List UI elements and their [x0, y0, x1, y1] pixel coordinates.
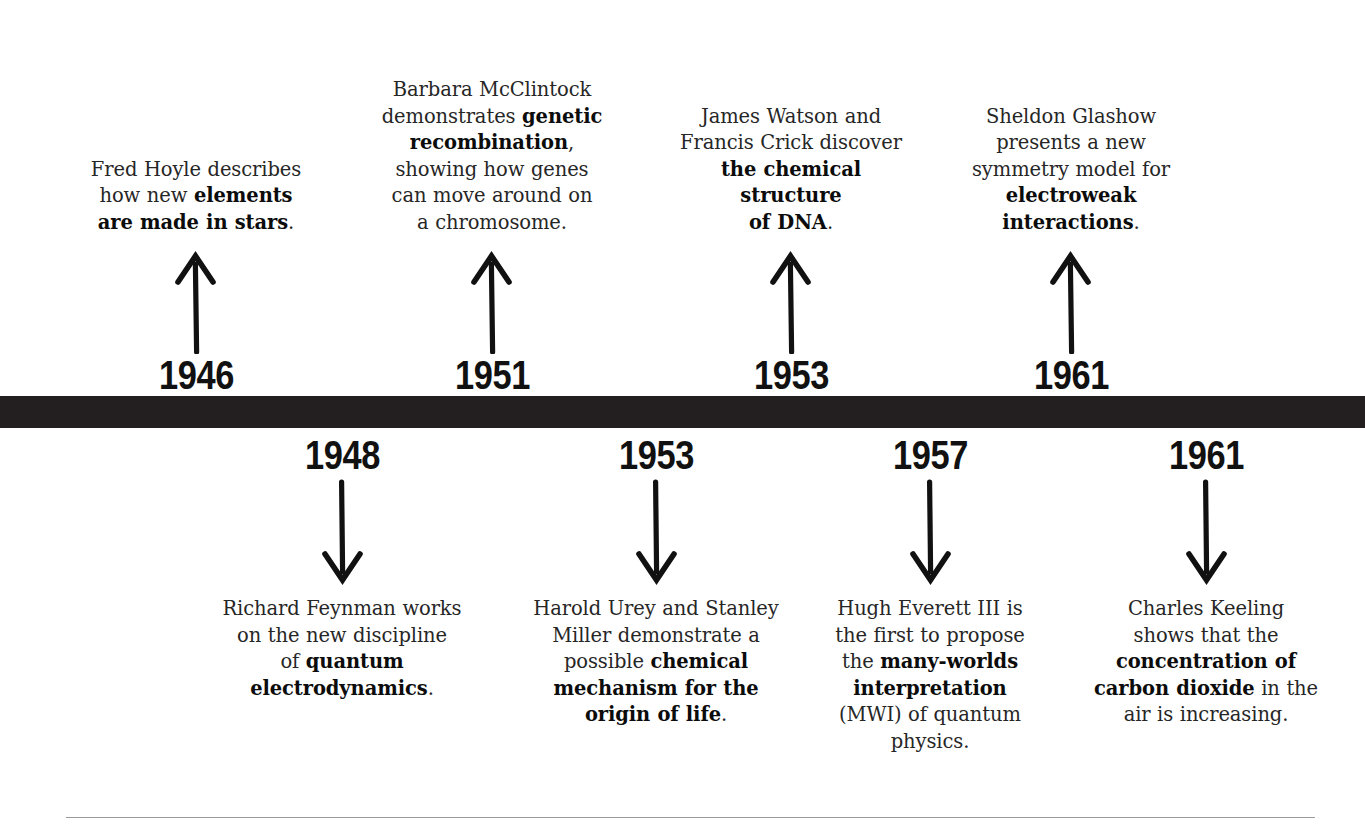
timeline-bar: [0, 396, 1365, 428]
timeline-event-above-0: Fred Hoyle describeshow new elementsare …: [62, 100, 330, 396]
timeline-event-above-1: Barbara McClintockdemonstrates geneticre…: [356, 28, 628, 396]
event-year: 1953: [754, 354, 829, 396]
event-caption: Harold Urey and StanleyMiller demonstrat…: [533, 596, 778, 729]
event-caption: James Watson andFrancis Crick discoverth…: [680, 104, 902, 237]
arrow-down-icon: [522, 476, 790, 592]
event-year: 1951: [455, 354, 530, 396]
event-year: 1948: [305, 434, 380, 476]
event-caption: Richard Feynman workson the new discipli…: [223, 596, 462, 702]
event-year: 1957: [893, 434, 968, 476]
arrow-up-icon: [938, 242, 1204, 354]
timeline-event-below-3: 1961 Charles Keelingshows that theconcen…: [1078, 434, 1334, 790]
event-year: 1946: [159, 354, 234, 396]
timeline-diagram: Fred Hoyle describeshow new elementsare …: [0, 0, 1365, 831]
timeline-event-below-1: 1953 Harold Urey and StanleyMiller demon…: [522, 434, 790, 790]
timeline-event-below-2: 1957 Hugh Everett III isthe first to pro…: [806, 434, 1054, 816]
event-caption: Fred Hoyle describeshow new elementsare …: [91, 157, 301, 237]
event-year: 1961: [1034, 354, 1109, 396]
arrow-up-icon: [356, 242, 628, 354]
event-year: 1961: [1169, 434, 1244, 476]
arrow-up-icon: [655, 242, 927, 354]
arrow-down-icon: [208, 476, 476, 592]
event-caption: Hugh Everett III isthe first to proposet…: [835, 596, 1025, 755]
timeline-event-below-0: 1948 Richard Feynman workson the new dis…: [208, 434, 476, 764]
timeline-event-above-2: James Watson andFrancis Crick discoverth…: [655, 54, 927, 396]
timeline-event-above-3: Sheldon Glashowpresents a newsymmetry mo…: [938, 54, 1204, 396]
event-caption: Barbara McClintockdemonstrates geneticre…: [382, 77, 603, 236]
arrow-down-icon: [1078, 476, 1334, 592]
event-caption: Charles Keelingshows that theconcentrati…: [1094, 596, 1318, 729]
event-year: 1953: [619, 434, 694, 476]
arrow-down-icon: [806, 476, 1054, 592]
arrow-up-icon: [62, 242, 330, 354]
event-caption: Sheldon Glashowpresents a newsymmetry mo…: [972, 104, 1170, 237]
footer-divider: [66, 817, 1315, 818]
